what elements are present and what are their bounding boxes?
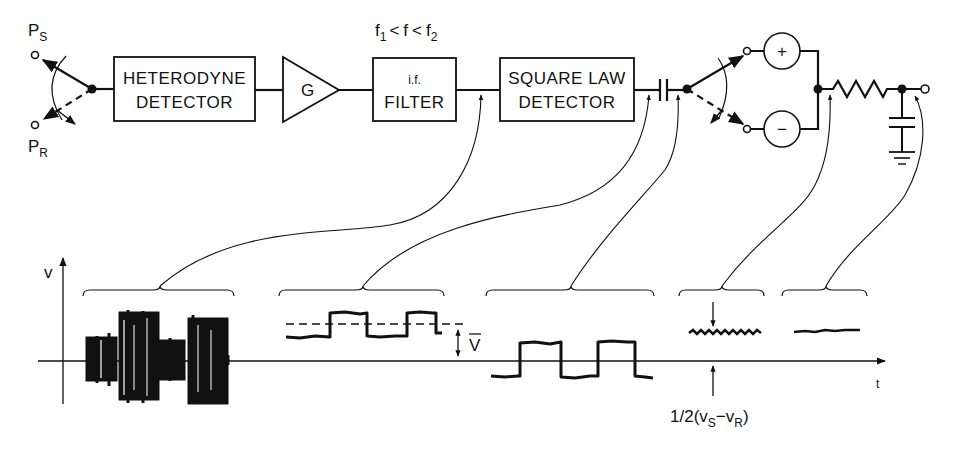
svg-text:FILTER: FILTER [384, 93, 444, 112]
vbar-label: V [469, 336, 481, 355]
minus-terminal [744, 126, 751, 133]
svg-text:HETERODYNE: HETERODYNE [123, 69, 246, 88]
sync-switch [683, 48, 765, 133]
minus-channel: − [764, 111, 800, 147]
brace-2 [279, 286, 444, 296]
waveform-braces [83, 286, 867, 296]
pr-label: PR [28, 137, 48, 160]
resistor [818, 81, 902, 97]
leader-square-law [363, 95, 649, 286]
brace-3 [486, 286, 654, 296]
radiometer-diagram: PS PR HETERODYNE DETECTOR G f1<f<f2 i.f.… [0, 0, 963, 457]
plus-terminal [744, 48, 751, 55]
ps-terminal [32, 52, 39, 59]
amplifier-block: G [283, 57, 339, 122]
leader-if-output [160, 95, 481, 286]
svg-text:SQUARE LAW: SQUARE LAW [508, 69, 626, 88]
svg-text:i.f.: i.f. [408, 73, 421, 87]
passband-annotation: f1<f<f2 [375, 21, 438, 44]
heterodyne-detector-block: HETERODYNE DETECTOR [114, 57, 255, 121]
ps-label: PS [28, 21, 47, 44]
svg-text:G: G [301, 81, 315, 100]
square-law-detector-block: SQUARE LAW DETECTOR [500, 58, 634, 121]
ground-icon [889, 152, 915, 164]
svg-text:−: − [777, 120, 787, 139]
waveform-if-output [86, 310, 228, 404]
svg-text:DETECTOR: DETECTOR [518, 93, 615, 112]
if-filter-block: f1<f<f2 i.f. FILTER [373, 21, 456, 121]
x-axis-label: t [876, 377, 880, 391]
output-terminal [921, 85, 929, 93]
waveform-square-law-output: V [286, 312, 481, 356]
rc-integrator [818, 81, 929, 164]
difference-label: 1/2(vS−vR) [670, 407, 749, 430]
brace-1 [83, 286, 234, 296]
plus-channel: + [764, 33, 800, 69]
y-axis-label: v [44, 263, 53, 282]
svg-text:+: + [777, 42, 787, 61]
brace-4 [679, 286, 764, 296]
input-switch: PS PR [28, 21, 114, 160]
dc-block-capacitor [660, 79, 667, 101]
waveform-sync-output: 1/2(vS−vR) [670, 302, 761, 430]
probe-leaders [160, 95, 923, 286]
pr-terminal [32, 122, 39, 129]
leader-integrated-output [826, 96, 923, 286]
waveform-integrated-output [794, 330, 860, 332]
svg-text:DETECTOR: DETECTOR [136, 93, 233, 112]
waveform-ac-coupled [491, 341, 653, 378]
leader-ac-coupled [571, 95, 678, 286]
brace-5 [782, 286, 867, 296]
